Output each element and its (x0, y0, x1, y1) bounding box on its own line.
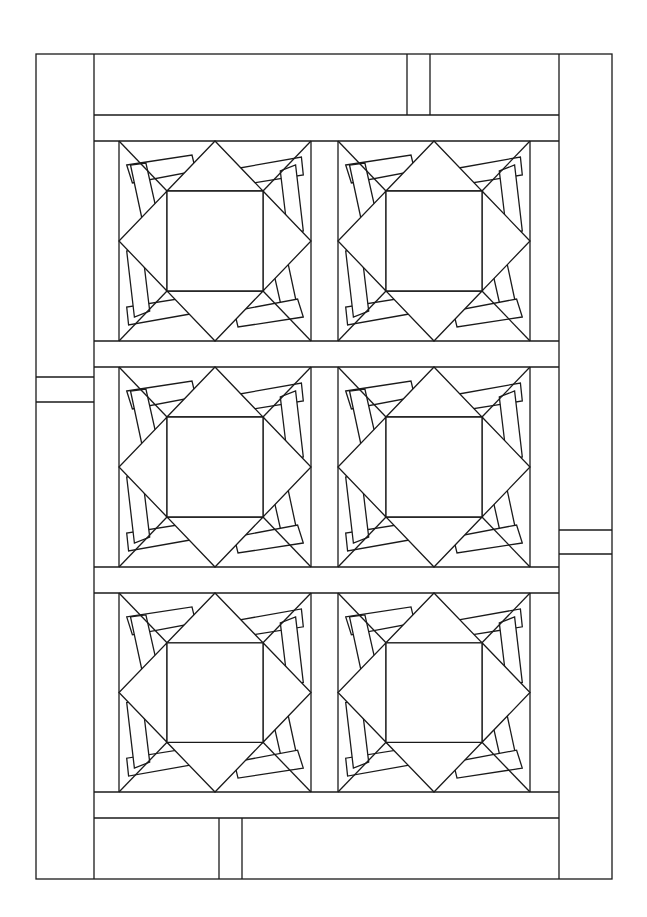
quilt-drawing (0, 0, 647, 917)
center-square (167, 191, 263, 291)
star-block (119, 141, 311, 341)
center-square (386, 191, 482, 291)
star-block (119, 367, 311, 567)
quilt-blocks (119, 141, 530, 792)
center-square (167, 643, 263, 743)
star-block (338, 593, 530, 792)
center-square (386, 417, 482, 517)
center-square (167, 417, 263, 517)
star-block (338, 367, 530, 567)
star-block (338, 141, 530, 341)
star-block (119, 593, 311, 792)
center-square (386, 643, 482, 743)
